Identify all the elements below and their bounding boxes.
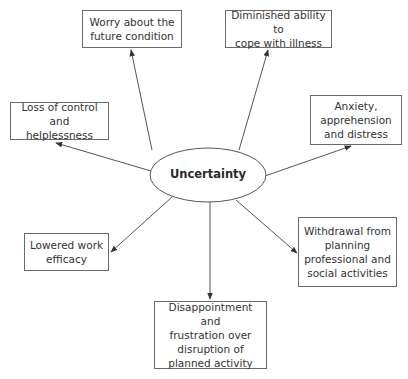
node-worry: Worry about the future condition	[82, 10, 182, 48]
node-disappointment: Disappointment and frustration over disr…	[154, 301, 267, 369]
arrow-to-lowered	[111, 197, 172, 252]
arrow-to-worry	[131, 50, 152, 150]
arrow-to-withdrawal	[236, 200, 297, 253]
center-label: Uncertainty	[150, 167, 266, 181]
node-diminished-ability: Diminished ability to cope with illness	[225, 10, 332, 48]
arrow-to-loss	[56, 143, 151, 171]
node-loss-of-control: Loss of control and helplessness	[10, 102, 109, 140]
node-lowered-work-efficacy: Lowered work efficacy	[24, 233, 109, 271]
node-anxiety: Anxiety, apprehension and distress	[310, 95, 402, 145]
uncertainty-diagram: Uncertainty Worry about the future condi…	[0, 0, 408, 379]
arrow-to-diminished	[239, 50, 268, 150]
node-withdrawal: Withdrawal from planning professional an…	[298, 217, 397, 287]
arrow-to-anxiety	[265, 146, 351, 176]
